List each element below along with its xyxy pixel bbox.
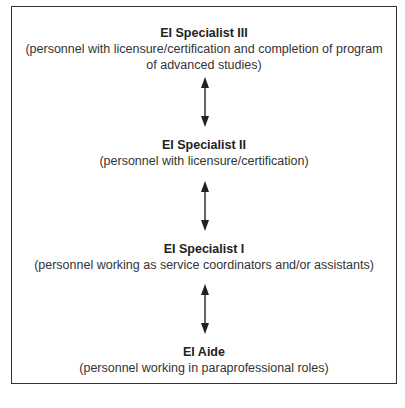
level-description-line: (personnel with licensure/certification … xyxy=(11,41,397,57)
level-description-line: (personnel working as service coordinato… xyxy=(11,257,397,273)
level-title: EI Specialist I xyxy=(11,241,397,257)
double-arrow-icon xyxy=(197,77,213,127)
level-ei-aide: EI Aide (personnel working in paraprofes… xyxy=(11,344,397,376)
level-description-line: (personnel working in paraprofessional r… xyxy=(11,360,397,376)
level-description-line: (personnel with licensure/certification) xyxy=(11,153,397,169)
level-ei-specialist-i: EI Specialist I (personnel working as se… xyxy=(11,241,397,273)
double-arrow-icon xyxy=(197,181,213,231)
level-title: EI Specialist II xyxy=(11,137,397,153)
double-arrow-icon xyxy=(197,284,213,334)
level-ei-specialist-iii: EI Specialist III (personnel with licens… xyxy=(11,25,397,73)
level-ei-specialist-ii: EI Specialist II (personnel with licensu… xyxy=(11,137,397,169)
level-description-line: of advanced studies) xyxy=(11,57,397,73)
level-title: EI Specialist III xyxy=(11,25,397,41)
level-title: EI Aide xyxy=(11,344,397,360)
